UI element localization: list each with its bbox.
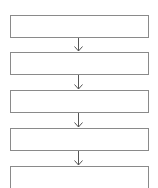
down-arrow-icon xyxy=(74,113,83,128)
down-arrow-icon xyxy=(74,38,83,52)
flowchart-step-2 xyxy=(10,52,149,75)
flowchart-step-3 xyxy=(10,90,149,113)
down-arrow-icon xyxy=(74,75,83,90)
flowchart-step-4 xyxy=(10,128,149,151)
down-arrow-icon xyxy=(74,151,83,166)
flowchart-step-1 xyxy=(10,15,149,38)
flowchart-step-5 xyxy=(10,166,149,188)
